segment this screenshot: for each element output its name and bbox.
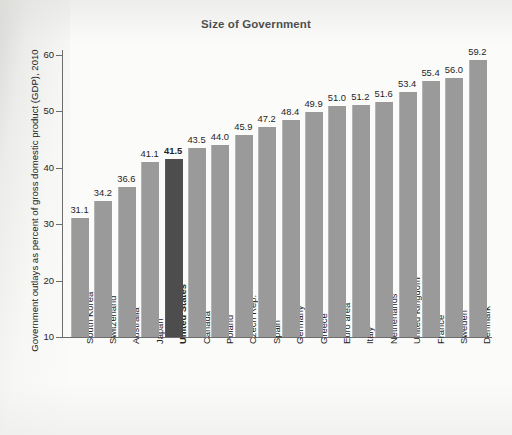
bar-value-label: 44.0 (203, 131, 237, 142)
bar-south-korea (71, 218, 89, 337)
bar-sweden (445, 78, 463, 337)
bar-switzerland (94, 201, 112, 337)
y-tick-label: 30 (28, 218, 54, 229)
bar-denmark (469, 60, 487, 337)
bar-greece (305, 112, 323, 337)
bar-value-label: 53.4 (390, 78, 424, 89)
chart-figure: Size of Government Government outlays as… (0, 0, 512, 435)
y-tick-label: 40 (28, 162, 54, 173)
bar-germany (282, 120, 300, 337)
bar-value-label: 51.6 (367, 88, 401, 99)
bar-value-label: 56.0 (437, 64, 471, 75)
chart-title: Size of Government (0, 18, 512, 30)
bar-czech-rep (235, 135, 253, 337)
bar-united-kingdom (399, 92, 417, 337)
bar-value-label: 34.2 (86, 187, 120, 198)
bar-euro-area (328, 106, 346, 337)
y-tick-label: 20 (28, 275, 54, 286)
bar-australia (118, 187, 136, 337)
y-tick-label: 10 (28, 331, 54, 342)
y-tick-label: 60 (28, 49, 54, 60)
bar-value-label: 31.1 (63, 204, 97, 215)
bar-netherlands (375, 102, 393, 337)
bar-united-states (165, 159, 183, 337)
bar-value-label: 59.2 (460, 46, 494, 57)
y-tick-label: 50 (28, 105, 54, 116)
bar-france (422, 81, 440, 337)
bar-canada (188, 148, 206, 337)
bar-value-label: 41.5 (156, 145, 190, 156)
bar-poland (211, 145, 229, 337)
bar-japan (141, 162, 159, 337)
bar-italy (352, 105, 370, 337)
y-axis-title: Government outlays as percent of gross d… (29, 36, 40, 366)
bar-value-label: 36.6 (109, 173, 143, 184)
bar-spain (258, 127, 276, 337)
